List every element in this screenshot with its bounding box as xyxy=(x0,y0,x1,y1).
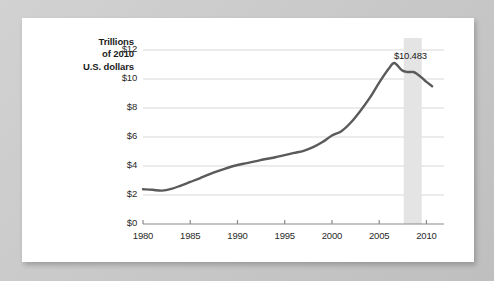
x-tick-label: 2010 xyxy=(406,230,446,241)
plot-area: $0$2$4$6$8$10$12198019851990199520002005… xyxy=(22,18,474,262)
chart-figure: Trillions of 2010 U.S. dollars $0$2$4$6$… xyxy=(22,18,474,262)
x-tick-label: 1990 xyxy=(217,230,257,241)
y-tick-label: $12 xyxy=(107,43,137,54)
x-tick-label: 2000 xyxy=(312,230,352,241)
data-line-value xyxy=(143,63,432,191)
shaded-band-recession xyxy=(404,38,422,224)
x-tick-label: 1985 xyxy=(170,230,210,241)
y-tick-label: $2 xyxy=(107,188,137,199)
x-tick-label: 1995 xyxy=(265,230,305,241)
x-tick-label: 2005 xyxy=(359,230,399,241)
y-tick-label: $0 xyxy=(107,217,137,228)
y-tick-label: $8 xyxy=(107,101,137,112)
x-tick-label: 1980 xyxy=(123,230,163,241)
y-tick-label: $6 xyxy=(107,130,137,141)
value-annotation: $10.483 xyxy=(394,50,427,61)
y-tick-label: $4 xyxy=(107,159,137,170)
figure-card: Trillions of 2010 U.S. dollars $0$2$4$6$… xyxy=(22,18,474,262)
y-tick-label: $10 xyxy=(107,72,137,83)
